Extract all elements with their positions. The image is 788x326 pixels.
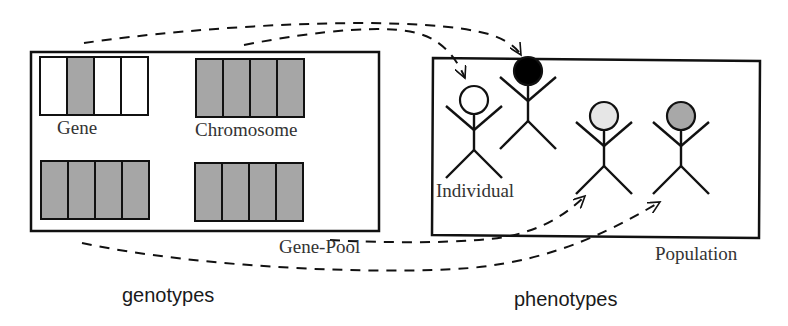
population-label: Population <box>655 243 737 265</box>
gene-cell-empty <box>94 57 121 115</box>
individual-black <box>500 57 556 149</box>
genotypes-caption: genotypes <box>122 284 214 307</box>
gene-cell-filled <box>223 59 250 117</box>
gene-pool-label: Gene-Pool <box>279 236 360 258</box>
phenotypes-caption: phenotypes <box>514 288 617 311</box>
gene-cell-filled <box>68 161 95 219</box>
mapping-arrow-top-outer <box>84 23 521 55</box>
gene-cell-filled <box>195 163 222 221</box>
individual-lightgray <box>576 102 632 194</box>
gene-cell-filled <box>277 59 304 117</box>
gene-chromosome <box>40 57 148 115</box>
individual-white <box>446 86 502 178</box>
gene-cell-filled <box>67 57 94 115</box>
gene-cell-filled <box>222 163 249 221</box>
chromosome-2 <box>41 161 149 219</box>
gene-cell-empty <box>40 57 67 115</box>
genotype-phenotype-diagram <box>0 0 788 326</box>
head-icon <box>667 102 695 130</box>
gene-cell-filled <box>196 59 223 117</box>
gene-cell-filled <box>249 163 276 221</box>
gene-cell-filled <box>276 163 303 221</box>
chromosome-label: Chromosome <box>195 119 297 141</box>
head-icon <box>460 86 488 114</box>
head-icon <box>514 57 542 85</box>
gene-cell-empty <box>121 57 148 115</box>
gene-cell-filled <box>41 161 68 219</box>
gene-cell-filled <box>122 161 149 219</box>
individual-label: Individual <box>436 180 514 202</box>
head-icon <box>590 102 618 130</box>
gene-cell-filled <box>95 161 122 219</box>
gene-label: Gene <box>57 117 97 139</box>
chromosome-1 <box>196 59 304 117</box>
individual-gray <box>653 102 709 194</box>
individuals <box>446 57 709 194</box>
population-box-outline <box>432 58 760 238</box>
gene-cell-filled <box>250 59 277 117</box>
chromosome-3 <box>195 163 303 221</box>
